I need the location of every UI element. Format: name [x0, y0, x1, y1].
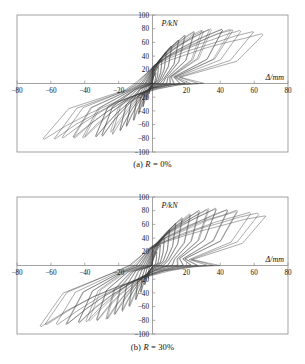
x-tick-label: −80: [11, 269, 23, 277]
caption-a-prefix: (a): [133, 159, 145, 169]
y-tick-label: 60: [142, 39, 150, 47]
plot-area-b: −80−60−40−2020406080−100−80−60−40−202040…: [0, 182, 305, 340]
y-tick-label: −100: [134, 331, 149, 339]
x-tick-label: 20: [183, 87, 191, 95]
x-tick-label: −40: [79, 87, 91, 95]
x-tick-label: 60: [251, 269, 259, 277]
x-tick-label: −80: [11, 87, 23, 95]
y-tick-label: 60: [142, 221, 150, 229]
figure-panel-b: −80−60−40−2020406080−100−80−60−40−202040…: [0, 182, 305, 364]
x-tick-label: 80: [284, 87, 292, 95]
x-tick-label: 80: [284, 269, 292, 277]
hysteresis-chart-a: −80−60−40−2020406080−100−80−60−40−202040…: [0, 0, 305, 158]
caption-b-value: = 30%: [149, 342, 175, 352]
hysteresis-loops: [43, 29, 263, 139]
caption-b-prefix: (b): [131, 342, 144, 352]
y-tick-label: −40: [138, 290, 150, 298]
plot-area-a: −80−60−40−2020406080−100−80−60−40−202040…: [0, 0, 305, 158]
caption-panel-a: (a) R = 0%: [0, 159, 305, 169]
x-tick-label: 40: [217, 87, 225, 95]
y-tick-label: −60: [138, 121, 150, 129]
hysteresis-loop: [96, 29, 212, 137]
y-tick-label: 40: [142, 235, 150, 243]
y-tick-label: −80: [138, 135, 150, 143]
y-tick-label: −100: [134, 149, 149, 157]
x-axis-label: Δ/mm: [265, 255, 285, 264]
y-tick-label: 80: [142, 207, 150, 215]
x-tick-label: −60: [45, 269, 57, 277]
x-tick-label: 20: [183, 269, 191, 277]
y-tick-label: −60: [138, 303, 150, 311]
y-tick-label: 100: [138, 12, 149, 20]
x-axis-label: Δ/mm: [265, 73, 285, 82]
x-tick-label: −40: [79, 269, 91, 277]
caption-panel-b: (b) R = 30%: [0, 342, 305, 352]
x-tick-label: 40: [217, 269, 225, 277]
y-tick-label: 100: [138, 194, 149, 202]
y-axis-label: P/kN: [161, 201, 179, 210]
hysteresis-chart-b: −80−60−40−2020406080−100−80−60−40−202040…: [0, 182, 305, 340]
x-tick-label: −60: [45, 87, 57, 95]
caption-a-value: = 0%: [151, 159, 172, 169]
y-tick-label: −80: [138, 317, 150, 325]
y-axis-label: P/kN: [161, 19, 179, 28]
y-tick-label: 80: [142, 25, 150, 33]
figure-panel-a: −80−60−40−2020406080−100−80−60−40−202040…: [0, 0, 305, 182]
hysteresis-loop: [97, 209, 209, 321]
y-tick-label: 40: [142, 53, 150, 61]
x-tick-label: 60: [251, 87, 259, 95]
